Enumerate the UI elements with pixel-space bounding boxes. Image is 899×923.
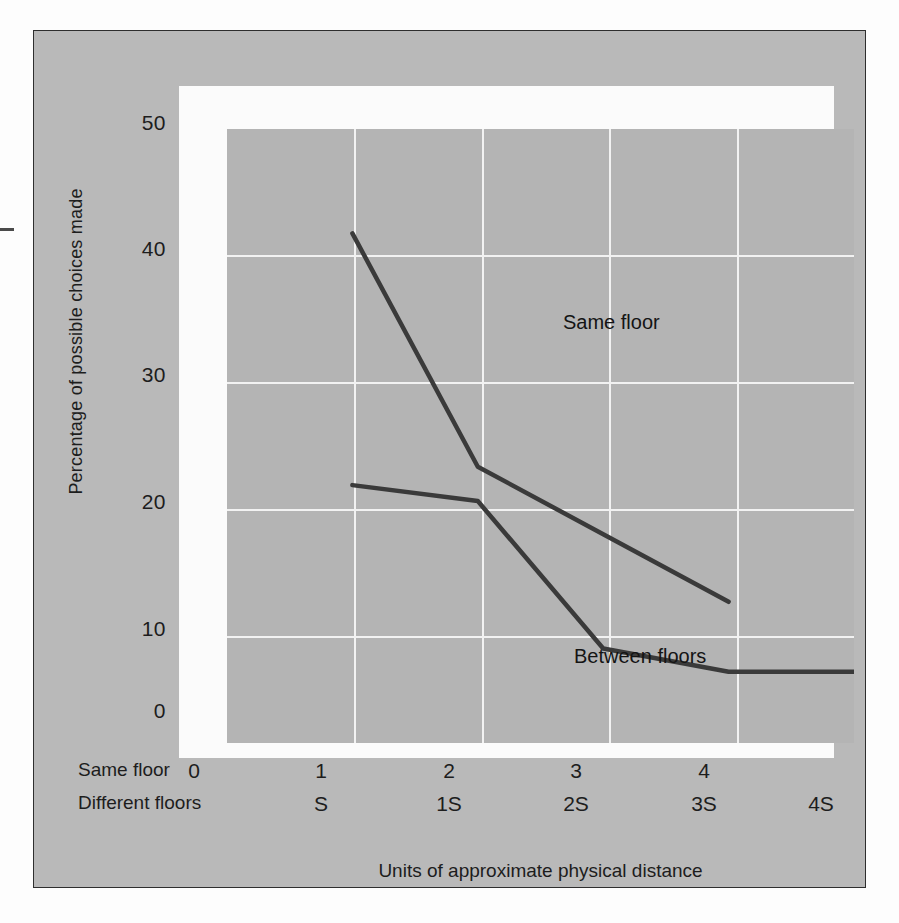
x-tick-different-floors-5: 4S — [791, 792, 851, 816]
y-axis-title: Percentage of possible choices made — [66, 152, 87, 532]
y-tick-label-50: 50 — [106, 111, 166, 135]
x-tick-different-floors-4: 3S — [674, 792, 734, 816]
line-same-floor — [352, 233, 728, 601]
x-tick-different-floors-2: 1S — [419, 792, 479, 816]
x-axis-row-label-different-floors: Different floors — [78, 792, 201, 814]
series-annotation-between-floors: Between floors — [574, 645, 706, 668]
x-tick-same-floor-4: 4 — [674, 759, 734, 783]
x-axis-row-label-same-floor: Same floor — [78, 759, 170, 781]
x-tick-different-floors-3: 2S — [546, 792, 606, 816]
page-canvas: Percentage of possible choices made 50 4… — [0, 0, 899, 923]
x-axis-row-different-floors: Different floors S 1S 2S 3S 4S — [34, 792, 865, 818]
y-tick-label-10: 10 — [106, 617, 166, 641]
series-annotation-same-floor: Same floor — [563, 311, 660, 334]
x-tick-same-floor-0: 0 — [164, 759, 224, 783]
y-tick-label-0: 0 — [106, 699, 166, 723]
x-tick-same-floor-3: 3 — [546, 759, 606, 783]
series-plot-lines — [227, 129, 854, 743]
x-axis-title: Units of approximate physical distance — [227, 860, 854, 882]
y-tick-label-30: 30 — [106, 363, 166, 387]
x-tick-different-floors-1: S — [291, 792, 351, 816]
line-between-floors — [352, 485, 854, 672]
page-edge-rule — [0, 228, 14, 231]
y-tick-label-20: 20 — [106, 490, 166, 514]
x-tick-same-floor-1: 1 — [291, 759, 351, 783]
figure-panel: Percentage of possible choices made 50 4… — [33, 30, 866, 888]
plot-area: Same floor Between floors — [227, 129, 854, 743]
x-tick-same-floor-2: 2 — [419, 759, 479, 783]
y-tick-label-40: 40 — [106, 237, 166, 261]
x-axis-row-same-floor: Same floor 0 1 2 3 4 — [34, 759, 865, 785]
